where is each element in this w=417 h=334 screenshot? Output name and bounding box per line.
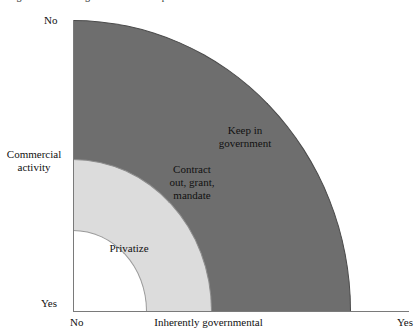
y-axis-tick-top: No <box>44 14 57 26</box>
region-label-privatize: Privatize <box>84 242 174 255</box>
region-label-keep-in-government: Keep in government <box>200 124 290 150</box>
plot-area <box>73 20 409 311</box>
x-axis-title: Inherently governmental <box>0 316 417 329</box>
concentric-bands <box>73 20 409 311</box>
x-axis-line <box>73 311 409 312</box>
figure-caption: Figure 1.1 Deciding how to deliver a pub… <box>8 0 408 3</box>
region-label-contract-out: Contract out, grant, mandate <box>152 163 232 202</box>
y-axis-tick-bottom: Yes <box>41 297 57 309</box>
y-axis-title: Commercial activity <box>0 148 68 174</box>
figure-canvas: Figure 1.1 Deciding how to deliver a pub… <box>0 0 417 334</box>
y-axis-line <box>73 20 74 312</box>
